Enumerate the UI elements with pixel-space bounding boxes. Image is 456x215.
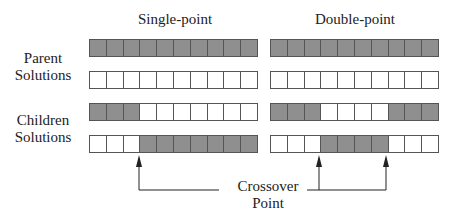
single-crossover-arrow-icon: [136, 155, 219, 190]
crossover-arrows: [0, 0, 456, 215]
double-crossover-arrow-icon: [307, 155, 389, 190]
